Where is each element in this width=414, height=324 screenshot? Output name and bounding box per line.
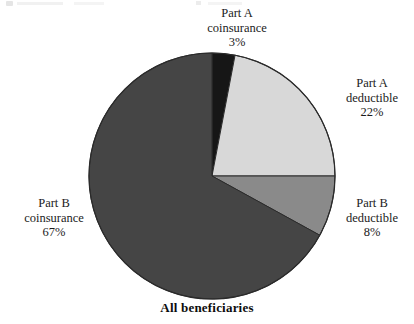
slice-label-value: 22%	[330, 105, 414, 120]
pie-chart-figure: Part A coinsurance 3% Part A deductible …	[0, 0, 414, 324]
slice-label-line2: deductible	[330, 211, 414, 226]
slice-label-part-a-deductible: Part A deductible 22%	[330, 76, 414, 120]
slice-label-value: 8%	[330, 225, 414, 240]
slice-label-line1: Part B	[2, 196, 106, 211]
slice-label-line2: deductible	[330, 91, 414, 106]
slice-label-line1: Part B	[330, 196, 414, 211]
slice-label-line2: coinsurance	[169, 21, 305, 36]
chart-caption: All beneficiaries	[0, 300, 414, 316]
slice-label-line2: coinsurance	[2, 211, 106, 226]
slice-label-value: 67%	[2, 225, 106, 240]
slice-label-line1: Part A	[330, 76, 414, 91]
slice-label-part-b-deductible: Part B deductible 8%	[330, 196, 414, 240]
slice-label-value: 3%	[169, 35, 305, 50]
slice-label-line1: Part A	[169, 6, 305, 21]
slice-label-part-b-coinsurance: Part B coinsurance 67%	[2, 196, 106, 240]
pie-slice-group	[89, 53, 335, 299]
slice-label-part-a-coinsurance: Part A coinsurance 3%	[169, 6, 305, 50]
